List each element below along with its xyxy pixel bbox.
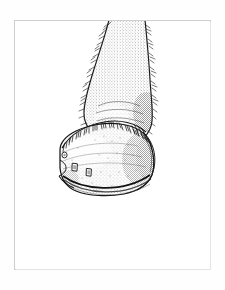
nail-clinch-3 [86, 168, 91, 176]
illustration-clip [15, 21, 210, 269]
horse-hoof-illustration [15, 21, 210, 269]
page-canvas: Horse lower leg and shod hoof pen-and-in… [0, 0, 225, 290]
nail-clinch-1 [62, 152, 67, 158]
nail-clinch-2 [72, 163, 78, 171]
